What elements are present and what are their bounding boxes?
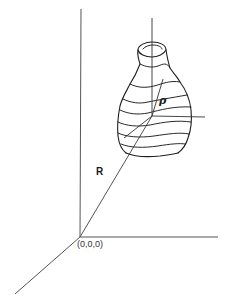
label-origin: (0,0,0): [77, 240, 103, 249]
object-body: [118, 42, 192, 157]
contour-line: [120, 107, 191, 114]
object-bottom-outline: [126, 153, 178, 157]
local-x-axis: [152, 116, 205, 117]
label-rho: ρ: [159, 95, 166, 106]
local-y-axis: [124, 116, 152, 138]
position-vector-R: [80, 116, 152, 237]
contour-line: [121, 144, 185, 148]
contour-line: [140, 64, 170, 68]
contour-line: [118, 121, 191, 126]
local-axes: [124, 18, 205, 138]
contour-line: [118, 133, 189, 137]
object-top-opening: [143, 45, 162, 49]
global-y-axis: [15, 237, 80, 294]
coordinate-diagram: [0, 0, 226, 296]
contour-line: [130, 81, 180, 87]
object-right-outline: [166, 50, 191, 153]
diagram-canvas: R ρ (0,0,0): [0, 0, 226, 296]
global-z-axis: [80, 9, 81, 237]
object-contours: [118, 64, 191, 147]
label-R: R: [96, 167, 103, 177]
global-axes: [15, 9, 218, 294]
contour-line: [123, 95, 187, 103]
